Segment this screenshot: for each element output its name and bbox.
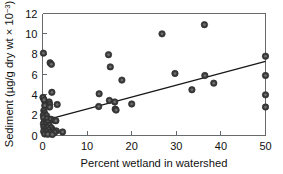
data-point-center	[61, 131, 64, 134]
scatter-plot-figure: 024681012 01020304050 Percent wetland in…	[0, 0, 283, 174]
data-point	[172, 70, 178, 76]
data-point-center	[55, 119, 58, 122]
data-point-center	[43, 104, 46, 107]
data-point-center	[51, 91, 54, 94]
data-point-center	[107, 53, 110, 56]
y-tick-label-0: 0	[31, 130, 37, 142]
data-point	[262, 92, 268, 98]
data-point-center	[174, 72, 177, 75]
data-point	[262, 53, 268, 59]
data-point	[262, 104, 268, 110]
data-point-center	[212, 82, 215, 85]
data-point	[211, 80, 217, 86]
data-point-center	[42, 52, 45, 55]
data-point	[189, 87, 195, 93]
x-axis-tick-labels: 01020304050	[39, 140, 271, 152]
data-point	[96, 91, 102, 97]
data-point	[40, 50, 46, 56]
data-point-center	[43, 99, 46, 102]
y-tick-label-8: 8	[31, 48, 37, 60]
data-point-center	[56, 103, 59, 106]
data-point-center	[98, 92, 101, 95]
data-point	[53, 118, 59, 124]
data-point	[113, 107, 119, 113]
data-point	[46, 104, 52, 110]
data-point-center	[130, 103, 133, 106]
data-point	[112, 99, 118, 105]
axes-frame	[43, 14, 266, 136]
data-point	[49, 89, 55, 95]
data-point-center	[204, 74, 207, 77]
data-point	[119, 77, 125, 83]
x-tick-label-30: 30	[170, 140, 182, 152]
data-point-center	[161, 32, 164, 35]
data-point	[159, 31, 165, 37]
data-point-center	[191, 88, 194, 91]
data-point-center	[115, 109, 118, 112]
y-axis-title: Sediment (µg/g dry wt × 10−3)	[3, 0, 16, 147]
x-tick-label-10: 10	[81, 140, 93, 152]
data-point	[49, 131, 55, 137]
data-point-center	[264, 93, 267, 96]
x-tick-label-50: 50	[259, 140, 271, 152]
y-axis-tick-labels: 024681012	[25, 8, 37, 142]
data-point-center	[264, 74, 267, 77]
y-tick-label-2: 2	[31, 109, 37, 121]
data-point-center	[264, 55, 267, 58]
data-point-center	[109, 66, 112, 69]
y-tick-label-10: 10	[25, 28, 37, 40]
data-point	[129, 101, 135, 107]
data-point-center	[50, 63, 53, 66]
data-point	[54, 101, 60, 107]
y-tick-label-4: 4	[31, 89, 37, 101]
data-point-center	[203, 23, 206, 26]
y-tick-label-6: 6	[31, 69, 37, 81]
data-point	[262, 72, 268, 78]
regression-line	[43, 61, 266, 120]
y-tick-label-12: 12	[25, 8, 37, 20]
data-point	[201, 21, 207, 27]
data-point	[48, 61, 54, 67]
plot-canvas: 024681012 01020304050 Percent wetland in…	[0, 0, 283, 174]
x-axis-title: Percent wetland in watershed	[81, 157, 228, 169]
data-point-center	[97, 105, 100, 108]
data-point-center	[48, 106, 51, 109]
data-point-center	[264, 106, 267, 109]
x-axis-ticks	[43, 131, 266, 136]
x-tick-label-40: 40	[215, 140, 227, 152]
trendline-segment	[43, 61, 266, 120]
x-tick-label-20: 20	[126, 140, 138, 152]
data-point	[105, 51, 111, 57]
data-points	[40, 21, 269, 137]
data-point	[107, 64, 113, 70]
data-point	[202, 72, 208, 78]
data-point	[95, 103, 101, 109]
data-point-center	[121, 79, 124, 82]
data-point	[59, 129, 65, 135]
data-point-center	[51, 133, 54, 136]
data-point-center	[108, 99, 111, 102]
x-tick-label-0: 0	[39, 140, 45, 152]
data-point-center	[113, 101, 116, 104]
